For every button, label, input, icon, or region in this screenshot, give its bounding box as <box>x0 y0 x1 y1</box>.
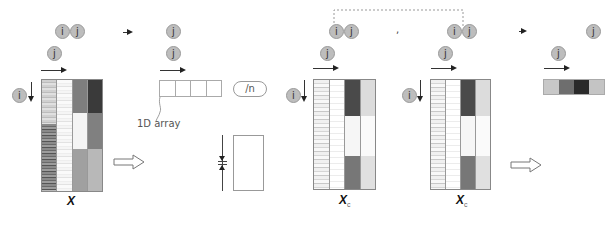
fat-arrow-right-icon <box>113 154 145 170</box>
index-j-label: j <box>444 48 447 59</box>
index-j-circle: j <box>551 46 566 61</box>
arrow-right-icon <box>160 70 184 71</box>
index-j-circle: j <box>166 24 181 39</box>
arrow-up-icon <box>219 165 225 170</box>
heatmap-column <box>88 80 102 191</box>
heatmap-column <box>330 80 346 189</box>
arrow-down-icon <box>219 156 225 161</box>
array-cell <box>176 81 192 96</box>
result-cell <box>574 80 589 94</box>
index-j-label: j <box>53 48 56 59</box>
arrow-right-icon <box>431 68 455 69</box>
matrix-x-heatmap <box>41 79 103 192</box>
index-j-label: j <box>76 26 79 37</box>
divide-by-n-badge: /n <box>233 81 267 97</box>
heatmap-column <box>345 80 361 189</box>
index-i-label: i <box>292 90 295 101</box>
index-i-label: i <box>61 26 64 37</box>
index-j-circle: j <box>166 46 181 61</box>
arrow-down-icon <box>420 80 421 100</box>
heatmap-column <box>476 80 490 189</box>
result-cell <box>589 80 604 94</box>
matrix-xc-heatmap <box>430 79 491 190</box>
result-row-bar <box>543 79 605 95</box>
arrow-right-icon <box>313 68 337 69</box>
arrow-right-icon <box>544 68 568 69</box>
array-cell <box>191 81 207 96</box>
index-i-label: i <box>453 26 456 37</box>
heatmap-column <box>361 80 376 189</box>
arrow-down-icon <box>31 82 32 100</box>
index-i-label: i <box>335 26 338 37</box>
heatmap-column <box>42 80 57 191</box>
index-j-label: j <box>172 26 175 37</box>
heatmap-column <box>461 80 476 189</box>
arrow-down-icon <box>304 80 305 100</box>
array-cell <box>207 81 222 96</box>
index-j-label: j <box>557 48 560 59</box>
heatmap-column <box>314 80 330 189</box>
arrow-right-icon <box>41 70 65 71</box>
index-i-circle: i <box>286 88 301 103</box>
index-j-circle: j <box>462 24 477 39</box>
marker-tick <box>218 161 227 162</box>
index-j-circle: j <box>586 24 601 39</box>
index-i-circle: i <box>447 24 462 39</box>
heatmap-column <box>446 80 461 189</box>
one-d-array-label: 1D array <box>137 118 180 129</box>
index-j-circle: j <box>344 24 359 39</box>
index-j-label: j <box>592 26 595 37</box>
matrix-xc-label: Xc <box>456 193 468 208</box>
matrix-x-label: X <box>67 194 75 208</box>
index-j-label: j <box>468 26 471 37</box>
heatmap-column <box>73 80 88 191</box>
fat-arrow-right-icon <box>510 157 542 173</box>
index-i-label: i <box>408 90 411 101</box>
arrow-right-icon <box>519 31 525 32</box>
matrix-xc-label: Xc <box>339 193 351 208</box>
index-i-circle: i <box>402 88 417 103</box>
index-j-circle: j <box>438 46 453 61</box>
result-cell <box>559 80 574 94</box>
index-i-circle: i <box>12 88 27 103</box>
heatmap-column <box>57 80 72 191</box>
index-i-circle: i <box>329 24 344 39</box>
index-j-circle: j <box>70 24 85 39</box>
one-d-array <box>159 80 222 97</box>
index-j-circle: j <box>47 46 62 61</box>
arrow-right-icon <box>123 32 131 33</box>
array-cell <box>160 81 176 96</box>
separator-comma: , <box>396 24 399 35</box>
matrix-xc-heatmap <box>313 79 376 190</box>
result-cell <box>544 80 559 94</box>
heatmap-column <box>431 80 446 189</box>
index-i-label: i <box>18 90 21 101</box>
index-j-circle: j <box>320 46 335 61</box>
column-rectangle <box>233 135 264 191</box>
height-marker-line <box>222 135 223 191</box>
index-j-label: j <box>172 48 175 59</box>
index-j-label: j <box>326 48 329 59</box>
index-i-circle: i <box>55 24 70 39</box>
index-j-label: j <box>350 26 353 37</box>
